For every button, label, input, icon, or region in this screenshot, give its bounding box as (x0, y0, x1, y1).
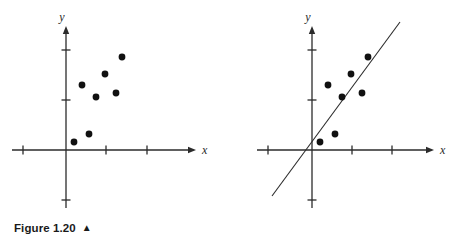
x-axis-arrowhead (188, 147, 196, 153)
regression-line-group (272, 22, 400, 196)
data-point (332, 131, 339, 138)
figure-1-21: x y Figure 1.21 ▲ (229, 0, 458, 242)
x-axis-label: x (439, 143, 446, 157)
data-point (102, 71, 109, 78)
y-axis-label: y (304, 10, 311, 24)
data-point (86, 131, 93, 138)
data-points-group (71, 54, 126, 146)
figure-page: x y Figure 1.20 ▲ x y Figure 1.21 ▲ (0, 0, 458, 242)
data-points-group (317, 54, 372, 146)
data-point (348, 71, 355, 78)
scatter-plot-1-21: x y (229, 0, 458, 215)
x-axis-label: x (201, 143, 208, 157)
regression-line (272, 22, 400, 196)
y-axis-label: y (58, 10, 65, 24)
plot-area-1-20: x y (0, 0, 229, 215)
scatter-plot-1-20: x y (0, 0, 229, 215)
data-point (79, 82, 86, 89)
figure-1-20: x y Figure 1.20 ▲ (0, 0, 229, 242)
figure-caption-text: Figure 1.20 (14, 222, 76, 234)
x-axis-arrowhead (426, 147, 434, 153)
data-point (325, 82, 332, 89)
axes-group (12, 26, 196, 208)
plot-area-1-21: x y (229, 0, 458, 215)
data-point (359, 90, 366, 97)
data-point (71, 139, 78, 146)
triangle-up-icon: ▲ (82, 223, 92, 233)
data-point (365, 54, 372, 61)
data-point (119, 54, 126, 61)
data-point (113, 90, 120, 97)
data-point (93, 94, 100, 101)
figure-caption-1-20: Figure 1.20 ▲ (14, 222, 92, 234)
data-point (317, 139, 324, 146)
data-point (339, 94, 346, 101)
y-axis-arrowhead (63, 26, 69, 34)
y-axis-arrowhead (309, 26, 315, 34)
